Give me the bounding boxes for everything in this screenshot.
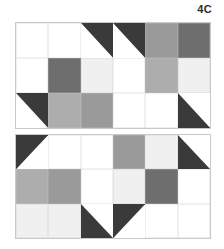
quilt-patch — [113, 93, 145, 128]
quilt-patch — [48, 58, 80, 93]
quilt-patch — [16, 135, 48, 169]
quilt-patch — [48, 93, 80, 128]
quilt-patch — [81, 58, 113, 93]
quilt-patch — [113, 204, 145, 238]
quilt-patch — [81, 93, 113, 128]
quilt-patch — [178, 169, 210, 203]
quilt-block-top — [15, 22, 211, 129]
quilt-patch — [81, 204, 113, 238]
quilt-patch — [81, 135, 113, 169]
quilt-patch — [113, 169, 145, 203]
quilt-patch — [178, 135, 210, 169]
quilt-patch — [113, 58, 145, 93]
quilt-grid-top — [16, 23, 210, 128]
quilt-patch — [178, 58, 210, 93]
quilt-patch — [48, 135, 80, 169]
quilt-patch — [48, 23, 80, 58]
quilt-patch — [113, 135, 145, 169]
quilt-patch — [145, 169, 177, 203]
quilt-patch — [16, 204, 48, 238]
quilt-patch — [145, 23, 177, 58]
quilt-grid-bottom — [16, 135, 210, 238]
quilt-patch — [16, 23, 48, 58]
quilt-patch — [145, 204, 177, 238]
quilt-patch — [48, 169, 80, 203]
quilt-patch — [113, 23, 145, 58]
quilt-patch — [178, 204, 210, 238]
quilt-patch — [16, 169, 48, 203]
quilt-block-bottom — [15, 134, 211, 239]
quilt-patch — [81, 169, 113, 203]
quilt-patch — [48, 204, 80, 238]
quilt-patch — [145, 93, 177, 128]
quilt-patch — [178, 93, 210, 128]
quilt-patch — [145, 135, 177, 169]
quilt-patch — [178, 23, 210, 58]
quilt-patch — [16, 93, 48, 128]
figure-label: 4C — [197, 2, 212, 16]
quilt-patch — [16, 58, 48, 93]
quilt-patch — [81, 23, 113, 58]
diagram-page: 4C — [0, 0, 224, 249]
quilt-patch — [145, 58, 177, 93]
